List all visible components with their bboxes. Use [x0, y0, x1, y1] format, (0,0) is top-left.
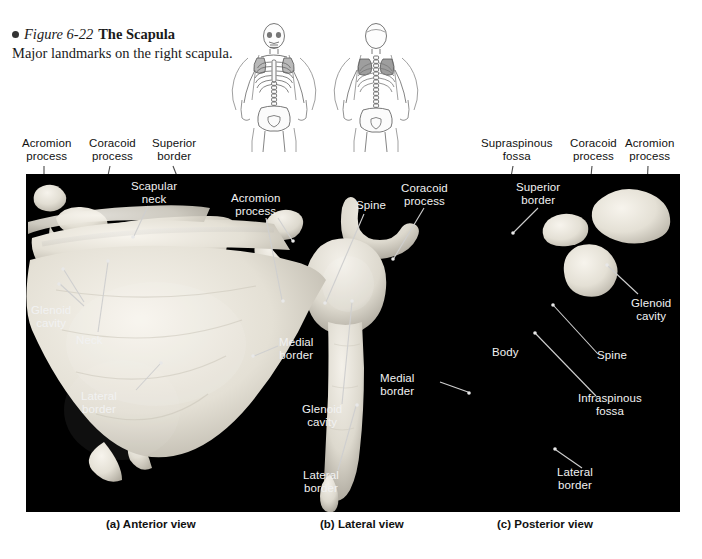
- label-anterior-superior-border: Superior border: [152, 137, 196, 163]
- label-anterior-lateral-border: Lateral border: [81, 390, 117, 416]
- figure-subtitle: Major landmarks on the right scapula.: [12, 45, 233, 62]
- label-lateral-medial-border: Medial border: [380, 372, 414, 398]
- label-posterior-body: Body: [492, 346, 519, 359]
- label-anterior-coracoid-process: Coracoid process: [89, 137, 136, 163]
- label-anterior-scapular-neck: Scapular neck: [131, 180, 177, 206]
- label-lateral-coracoid-process: Coracoid process: [401, 182, 448, 208]
- label-lateral-acromion-process: Acromion process: [231, 192, 280, 218]
- label-lateral-glenoid-cavity: Glenoid cavity: [302, 403, 342, 429]
- scapula-photo-panel: Scapular neck Glenoid cavity Neck Latera…: [26, 174, 680, 512]
- scapula-photographs: [26, 174, 680, 512]
- label-posterior-lateral-border: Lateral border: [557, 466, 593, 492]
- figure-bullet-icon: [12, 31, 19, 38]
- caption-lateral-view: (b) Lateral view: [320, 518, 404, 530]
- figure-title: The Scapula: [98, 26, 175, 42]
- label-lateral-lateral-border: Lateral border: [303, 469, 339, 495]
- label-posterior-coracoid-process: Coracoid process: [570, 137, 617, 163]
- figure-page: Figure 6-22The Scapula Major landmarks o…: [0, 0, 702, 559]
- skeleton-posterior-view-icon: [330, 22, 422, 152]
- label-anterior-neck: Neck: [76, 334, 103, 347]
- label-posterior-spine: Spine: [597, 349, 627, 362]
- label-lateral-spine: Spine: [356, 199, 386, 212]
- label-posterior-supraspinous-fossa: Supraspinous fossa: [481, 137, 553, 163]
- label-posterior-acromion-process: Acromion process: [625, 137, 674, 163]
- caption-anterior-view: (a) Anterior view: [106, 518, 196, 530]
- caption-posterior-view: (c) Posterior view: [497, 518, 593, 530]
- label-anterior-medial-border: Medial border: [279, 336, 313, 362]
- figure-number: Figure 6-22: [24, 26, 93, 42]
- label-anterior-glenoid-cavity: Glenoid cavity: [31, 304, 71, 330]
- label-anterior-acromion-process: Acromion process: [22, 137, 71, 163]
- label-posterior-superior-border: Superior border: [516, 181, 560, 207]
- figure-heading: Figure 6-22The Scapula: [12, 26, 175, 43]
- skeleton-anterior-view-icon: [228, 22, 320, 152]
- label-posterior-glenoid-cavity: Glenoid cavity: [631, 297, 671, 323]
- label-posterior-infraspinous-fossa: Infraspinous fossa: [578, 392, 642, 418]
